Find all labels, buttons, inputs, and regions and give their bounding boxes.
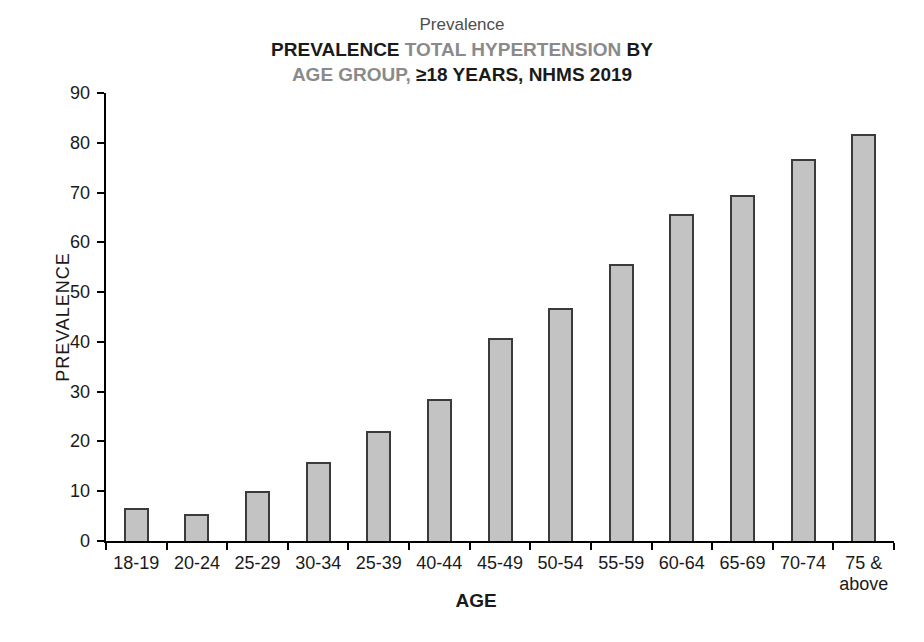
title-segment: PREVALENCE: [271, 39, 405, 60]
x-category-label: 75 & above: [828, 553, 899, 595]
y-axis-tick: [97, 490, 104, 492]
y-axis-tick: [97, 440, 104, 442]
y-tick-label: 0: [44, 531, 90, 551]
bar-20-24: [184, 514, 209, 541]
bar-40-44: [427, 399, 452, 541]
plot-area: 010203040506070809018-1920-2425-2930-342…: [104, 93, 894, 543]
y-tick-label: 80: [44, 133, 90, 153]
y-axis-tick: [97, 391, 104, 393]
y-tick-label: 40: [44, 332, 90, 352]
bar-25-29: [245, 491, 270, 541]
x-axis-tick: [287, 543, 289, 550]
chart-title-line-1: PREVALENCE TOTAL HYPERTENSION BY: [0, 37, 924, 62]
x-axis-tick: [166, 543, 168, 550]
y-axis-tick: [97, 540, 104, 542]
x-axis-title: AGE: [106, 590, 846, 612]
y-axis-tick: [97, 241, 104, 243]
title-block: Prevalence PREVALENCE TOTAL HYPERTENSION…: [0, 12, 924, 87]
x-axis-tick: [529, 543, 531, 550]
bar-45-49: [488, 338, 513, 541]
chart-canvas: Prevalence PREVALENCE TOTAL HYPERTENSION…: [0, 0, 924, 642]
y-tick-label: 70: [44, 183, 90, 203]
title-segment: AGE GROUP,: [292, 64, 416, 85]
y-axis-tick: [97, 291, 104, 293]
x-axis-tick: [832, 543, 834, 550]
x-axis-tick: [469, 543, 471, 550]
bar-70-74: [791, 159, 816, 541]
y-tick-label: 90: [44, 83, 90, 103]
x-axis-tick: [711, 543, 713, 550]
x-axis-tick: [590, 543, 592, 550]
bar-65-69: [730, 195, 755, 541]
bar-60-64: [669, 214, 694, 541]
y-axis-tick: [97, 341, 104, 343]
x-axis-tick: [347, 543, 349, 550]
bar-50-54: [548, 308, 573, 541]
y-axis-tick: [97, 142, 104, 144]
x-axis-tick: [893, 543, 895, 550]
chart-overtitle: Prevalence: [0, 12, 924, 37]
y-axis-tick: [97, 92, 104, 94]
x-axis-tick: [226, 543, 228, 550]
bar-75above: [851, 134, 876, 541]
y-tick-label: 10: [44, 481, 90, 501]
y-tick-label: 30: [44, 382, 90, 402]
bar-18-19: [124, 508, 149, 541]
title-segment: ≥18 YEARS, NHMS 2019: [416, 64, 632, 85]
x-axis-tick: [408, 543, 410, 550]
y-axis-title: PREVALENCE: [53, 252, 74, 382]
y-axis-tick: [97, 192, 104, 194]
y-tick-label: 20: [44, 431, 90, 451]
x-axis-tick: [105, 543, 107, 550]
title-segment: TOTAL HYPERTENSION: [405, 39, 627, 60]
x-axis-tick: [651, 543, 653, 550]
x-axis-tick: [772, 543, 774, 550]
bar-55-59: [609, 264, 634, 541]
title-segment: BY: [627, 39, 653, 60]
y-tick-label: 60: [44, 232, 90, 252]
chart-title-line-2: AGE GROUP, ≥18 YEARS, NHMS 2019: [0, 62, 924, 87]
bar-25-39: [366, 431, 391, 542]
y-tick-label: 50: [44, 282, 90, 302]
bar-30-34: [306, 462, 331, 541]
